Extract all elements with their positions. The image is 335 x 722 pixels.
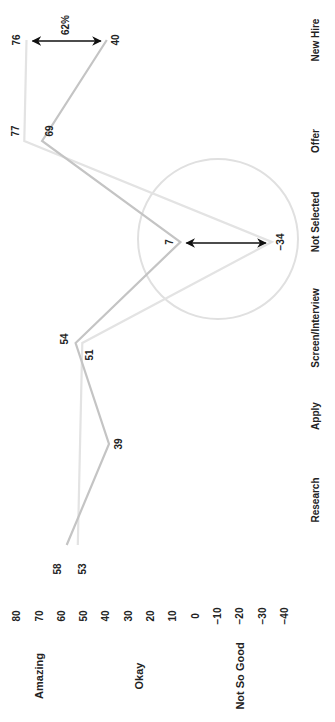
category-axis: ResearchApplyScreen/InterviewNot Selecte…: [310, 18, 321, 522]
highlight-circle-shape: [138, 159, 298, 319]
category-label: Offer: [310, 129, 321, 153]
annotation-label: 62%: [60, 15, 71, 35]
axis-tick-label: 50: [78, 610, 89, 622]
axis-tick-label: 20: [145, 610, 156, 622]
axis-tick-label: −40: [279, 607, 290, 624]
data-label: 58: [52, 563, 63, 575]
axis-tick-label: 30: [123, 610, 134, 622]
data-label: 39: [113, 438, 124, 450]
sentiment-bands: AmazingOkayNot So Good: [33, 642, 246, 709]
data-label: −34: [275, 233, 286, 250]
category-label: Not Selected: [310, 192, 321, 253]
data-label: 54: [59, 333, 70, 345]
value-axis: 80706050403020100−10−20−30−40: [11, 607, 290, 624]
band-label: Amazing: [33, 653, 45, 699]
axis-tick-label: 40: [100, 610, 111, 622]
axis-tick-label: −30: [257, 607, 268, 624]
series-lines: [24, 40, 271, 545]
data-label: 53: [77, 563, 88, 575]
data-label: 7: [164, 239, 175, 245]
category-label: Screen/Interview: [310, 288, 321, 368]
data-label: 76: [11, 34, 22, 46]
axis-tick-label: 70: [34, 610, 45, 622]
axis-tick-label: 60: [56, 610, 67, 622]
axis-tick-label: −20: [234, 607, 245, 624]
series-line-b: [24, 40, 271, 545]
data-label: 40: [110, 34, 121, 46]
axis-tick-label: 0: [190, 613, 201, 619]
category-label: Research: [310, 477, 321, 522]
highlight-circle: [138, 159, 298, 319]
category-label: Apply: [310, 402, 321, 430]
data-label: 51: [84, 349, 95, 361]
journey-line-chart: 583954769405351−347776 62% 8070605040302…: [0, 0, 335, 722]
axis-tick-label: 80: [11, 610, 22, 622]
axis-tick-label: 10: [167, 610, 178, 622]
band-label: Okay: [133, 662, 145, 690]
data-label: 77: [10, 125, 21, 137]
band-label: Not So Good: [234, 642, 246, 709]
axis-tick-label: −10: [212, 607, 223, 624]
category-label: New Hire: [310, 18, 321, 61]
data-labels: 583954769405351−347776: [10, 34, 287, 575]
annotation-arrows: 62%: [33, 15, 266, 243]
data-label: 69: [44, 125, 55, 137]
